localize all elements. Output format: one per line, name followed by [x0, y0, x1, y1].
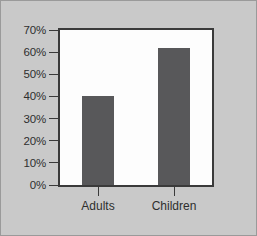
- y-axis-tick-mark: [49, 30, 58, 31]
- y-axis-tick-mark: [49, 52, 58, 53]
- y-axis-tick-mark: [49, 140, 58, 141]
- y-axis-tick: 60%: [24, 45, 58, 59]
- x-axis-tick-label: Adults: [81, 199, 114, 213]
- bar-children: [158, 48, 190, 185]
- y-axis-tick: 70%: [24, 23, 58, 37]
- y-axis-tick: 10%: [24, 156, 58, 170]
- y-axis-tick: 30%: [24, 112, 58, 126]
- y-axis-tick-label: 10%: [24, 157, 46, 169]
- y-axis: 70%60%50%40%30%20%10%0%: [1, 1, 58, 236]
- bar-chart-figure: 70%60%50%40%30%20%10%0% AdultsChildren: [0, 0, 257, 236]
- y-axis-tick-label: 50%: [24, 68, 46, 80]
- bar-adults: [82, 96, 114, 185]
- y-axis-tick: 40%: [24, 89, 58, 103]
- y-axis-tick-label: 30%: [24, 113, 46, 125]
- x-axis-tick-label: Children: [152, 199, 197, 213]
- y-axis-tick-label: 0%: [30, 179, 46, 191]
- y-axis-tick: 20%: [24, 134, 58, 148]
- x-axis-tick-mark: [98, 187, 99, 196]
- y-axis-tick-mark: [49, 185, 58, 186]
- y-axis-tick-label: 40%: [24, 90, 46, 102]
- y-axis-tick: 50%: [24, 67, 58, 81]
- y-axis-tick-label: 70%: [24, 24, 46, 36]
- y-axis-tick-mark: [49, 74, 58, 75]
- y-axis-tick-label: 20%: [24, 135, 46, 147]
- plot-area: [58, 28, 214, 187]
- y-axis-tick-mark: [49, 118, 58, 119]
- x-axis-tick-mark: [174, 187, 175, 196]
- y-axis-tick-label: 60%: [24, 46, 46, 58]
- y-axis-tick-mark: [49, 96, 58, 97]
- y-axis-tick: 0%: [30, 178, 58, 192]
- y-axis-tick-mark: [49, 162, 58, 163]
